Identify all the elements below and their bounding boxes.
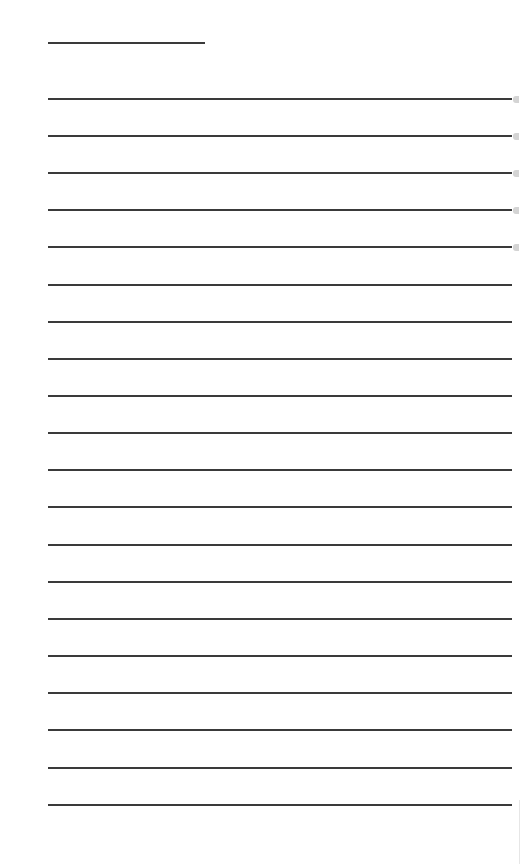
ruled-line xyxy=(48,804,512,806)
ruled-line xyxy=(48,729,512,731)
ruled-line xyxy=(48,284,512,286)
notepad-page xyxy=(0,0,520,864)
ruled-line xyxy=(48,692,512,694)
margin-tab-mark xyxy=(513,170,519,177)
ruled-line xyxy=(48,246,512,248)
ruled-line xyxy=(48,618,512,620)
ruled-line xyxy=(48,209,512,211)
ruled-line xyxy=(48,544,512,546)
ruled-line xyxy=(48,655,512,657)
ruled-line xyxy=(48,358,512,360)
ruled-line xyxy=(48,172,512,174)
ruled-line xyxy=(48,135,512,137)
margin-tab-mark xyxy=(513,133,519,140)
margin-tab-mark xyxy=(513,244,519,251)
ruled-line xyxy=(48,395,512,397)
ruled-line xyxy=(48,506,512,508)
ruled-line xyxy=(48,432,512,434)
ruled-line xyxy=(48,469,512,471)
ruled-line xyxy=(48,581,512,583)
title-line xyxy=(48,42,205,44)
margin-tab-mark xyxy=(513,207,519,214)
ruled-line xyxy=(48,321,512,323)
ruled-line xyxy=(48,98,512,100)
ruled-line xyxy=(48,767,512,769)
margin-tab-mark xyxy=(513,96,519,103)
